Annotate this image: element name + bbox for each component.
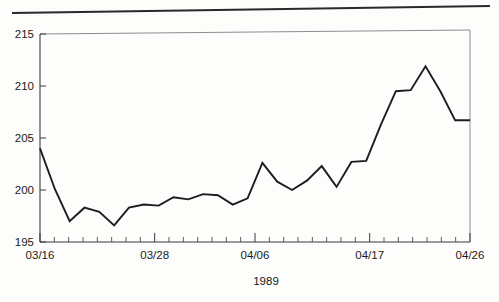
y-axis-tick-labels: 195200205210215	[15, 28, 34, 248]
chart-page: 195200205210215 03/1603/2804/0604/1704/2…	[0, 0, 499, 302]
x-tick-label: 04/17	[355, 249, 384, 261]
y-tick-label: 195	[15, 236, 34, 248]
data-series-line	[40, 66, 470, 225]
plot-frame	[40, 30, 470, 242]
y-tick-label: 215	[15, 28, 34, 40]
y-tick-label: 200	[15, 184, 34, 196]
frame-top	[40, 30, 470, 34]
y-axis-ticks	[40, 34, 46, 242]
x-axis-title: 1989	[253, 275, 279, 287]
x-axis-tick-labels: 03/1603/2804/0604/1704/26	[26, 249, 485, 261]
x-tick-label: 04/06	[241, 249, 270, 261]
chart-svg: 195200205210215 03/1603/2804/0604/1704/2…	[0, 0, 499, 302]
y-tick-label: 210	[15, 80, 34, 92]
y-tick-label: 205	[15, 132, 34, 144]
line-chart: 195200205210215 03/1603/2804/0604/1704/2…	[0, 0, 499, 302]
x-tick-label: 03/28	[140, 249, 169, 261]
x-tick-label: 03/16	[26, 249, 55, 261]
x-tick-label: 04/26	[456, 249, 485, 261]
axes	[40, 34, 470, 242]
x-axis-ticks	[40, 233, 470, 242]
